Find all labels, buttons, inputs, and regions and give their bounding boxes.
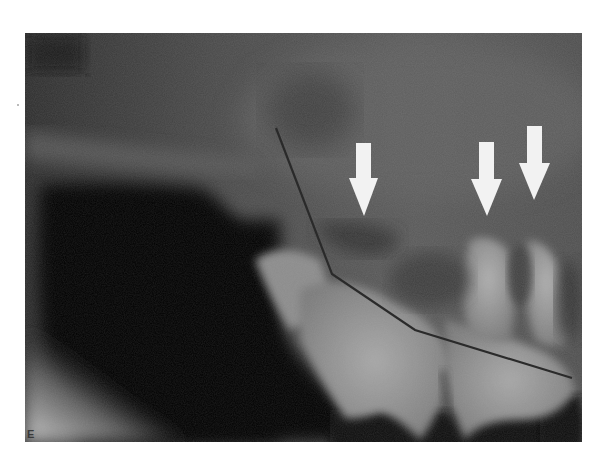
radiograph-image <box>25 33 582 442</box>
stray-mark <box>17 104 19 106</box>
panel-label: E <box>27 429 34 440</box>
